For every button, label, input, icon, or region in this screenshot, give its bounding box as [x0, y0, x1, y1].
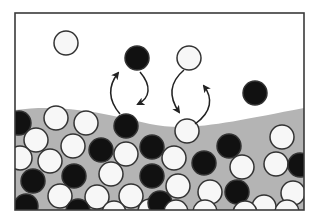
bulk-particle-white — [230, 155, 254, 179]
bulk-particle-white — [162, 146, 186, 170]
bulk-particle-black — [140, 164, 164, 188]
adsorption-diagram — [0, 0, 317, 220]
surface-particle-white — [175, 119, 199, 143]
bulk-particle-white — [264, 152, 288, 176]
bulk-particle-black — [192, 151, 216, 175]
bulk-particle-black — [89, 138, 113, 162]
bulk-particle-white — [74, 111, 98, 135]
bulk-particle-black — [62, 164, 86, 188]
bulk-particle-white — [38, 149, 62, 173]
gas-particle-black — [125, 46, 149, 70]
bulk-particle-white — [61, 134, 85, 158]
bulk-particle-white — [114, 142, 138, 166]
bulk-particle-white — [99, 162, 123, 186]
bulk-particle-black — [140, 135, 164, 159]
bulk-particle-white — [270, 125, 294, 149]
bulk-particle-black — [21, 169, 45, 193]
bulk-particle-white — [44, 106, 68, 130]
surface-particle-black — [114, 114, 138, 138]
gas-particle-white — [177, 46, 201, 70]
gas-particle-white — [54, 31, 78, 55]
bulk-particle-black — [217, 134, 241, 158]
bulk-particle-white — [166, 174, 190, 198]
gas-particle-black — [243, 81, 267, 105]
